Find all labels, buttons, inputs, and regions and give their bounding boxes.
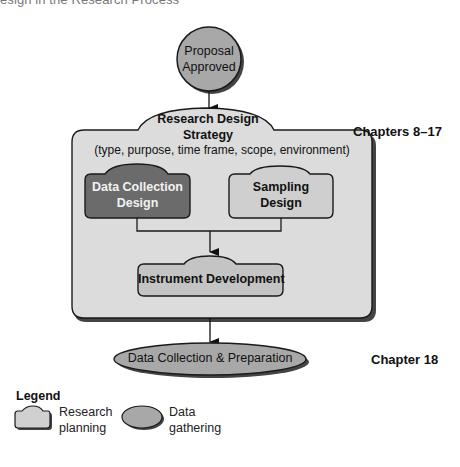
legend-item-1-line1: Data — [169, 405, 221, 421]
legend-title: Legend — [16, 389, 60, 403]
dcd-line2: Design — [85, 196, 190, 212]
sd-line1: Sampling — [229, 180, 333, 196]
legend-item-0-line2: planning — [59, 421, 113, 437]
legend-item-0-line1: Research — [59, 405, 113, 421]
strategy-subtitle: (type, purpose, time frame, scope, envir… — [76, 143, 368, 158]
legend-data-gathering-shape — [122, 406, 164, 430]
legend-item-1-line2: gathering — [169, 421, 221, 437]
proposal-line2: Approved — [177, 60, 241, 76]
strategy-title-line1: Research Design — [138, 112, 278, 128]
sd-line2: Design — [229, 196, 333, 212]
legend-data-gathering-label: Data gathering — [169, 405, 221, 436]
strategy-title-line2: Strategy — [138, 128, 278, 144]
legend-research-planning-label: Research planning — [59, 405, 113, 436]
proposal-line1: Proposal — [177, 44, 241, 60]
proposal-approved-label: Proposal Approved — [177, 44, 241, 75]
dcd-line1: Data Collection — [85, 180, 190, 196]
data-collection-design-label: Data Collection Design — [85, 180, 190, 211]
instrument-development-label: Instrument Development — [138, 272, 283, 288]
strategy-title: Research Design Strategy — [138, 112, 278, 143]
legend-research-planning-shape — [15, 406, 52, 430]
sampling-design-label: Sampling Design — [229, 180, 333, 211]
data-collection-preparation-label: Data Collection & Preparation — [114, 351, 306, 367]
chapters-8-17-label: Chapters 8–17 — [353, 124, 442, 139]
chapter-18-label: Chapter 18 — [371, 352, 438, 367]
